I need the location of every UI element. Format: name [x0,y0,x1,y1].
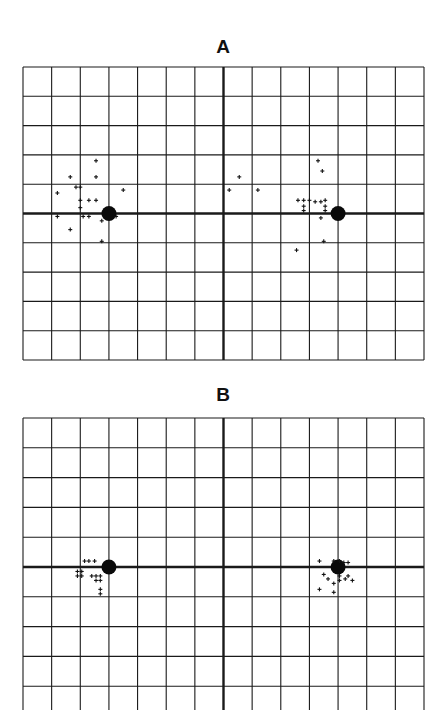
plus-marker [74,185,78,189]
plus-marker [68,228,72,232]
plus-marker [94,198,98,202]
plus-marker [256,188,260,192]
plus-marker [323,209,327,213]
plus-marker [94,175,98,179]
panel-a-grid [23,67,424,360]
plus-marker [94,574,98,578]
plus-marker [313,200,317,204]
plus-marker [75,574,79,578]
reference-dot [331,206,346,221]
plus-marker [55,191,59,195]
plus-marker [87,198,91,202]
plus-marker [296,198,300,202]
plus-marker [326,577,330,581]
plus-marker [78,185,82,189]
plus-marker [93,559,97,563]
reference-dot [101,560,116,575]
plus-marker [350,578,354,582]
reference-dot [101,206,116,221]
plus-marker [346,561,350,565]
plus-marker [317,559,321,563]
plus-marker [295,248,299,252]
plus-marker [332,590,336,594]
plus-marker [87,559,91,563]
plus-marker [332,581,336,585]
plus-marker [322,572,326,576]
plus-marker [55,214,59,218]
plus-marker [316,159,320,163]
plus-marker [87,214,91,218]
plus-marker [81,214,85,218]
plus-marker [323,198,327,202]
plus-marker [94,159,98,163]
plus-marker [302,198,306,202]
plus-marker [78,198,82,202]
plus-marker [317,587,321,591]
plus-marker [319,200,323,204]
plus-marker [100,219,104,223]
plus-marker [307,198,311,202]
plus-marker [346,574,350,578]
plus-marker [343,577,347,581]
plus-marker [75,569,79,573]
plus-marker [90,574,94,578]
plus-marker [121,188,125,192]
plus-marker [83,559,87,563]
plus-marker [98,587,102,591]
plus-marker [98,574,102,578]
chart-canvas [0,0,446,710]
plus-marker [227,188,231,192]
panel-b-grid [23,418,424,710]
plus-marker [323,204,327,208]
plus-marker [319,216,323,220]
plus-marker [68,175,72,179]
plus-marker [98,592,102,596]
plus-marker [78,206,82,210]
plus-marker [302,204,306,208]
plus-marker [320,169,324,173]
plus-marker [94,578,98,582]
plus-marker [237,175,241,179]
plus-marker [302,209,306,213]
plus-marker [98,578,102,582]
